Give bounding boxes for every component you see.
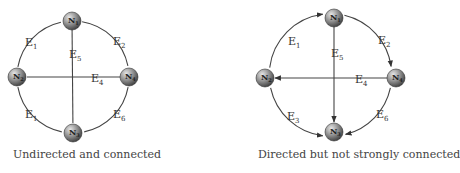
edge-label: E6 [376, 108, 389, 123]
edge-label: E1 [288, 35, 301, 50]
edge-e3 [271, 88, 323, 136]
node-n4: N4 [120, 68, 138, 86]
directed-graph: E1E2E5E4E3E6N1N2N3N4 [256, 9, 405, 141]
node-n2: N2 [8, 68, 26, 86]
edge-label: E4 [355, 73, 368, 88]
edge-label: E2 [378, 34, 391, 49]
undirected-graph: E1E2E5E4E1E6N1N2N3N4 [8, 12, 138, 142]
edge-label: E5 [331, 47, 344, 62]
caption-directed: Directed but not strongly connected [258, 148, 460, 161]
node-n1: N1 [325, 9, 343, 27]
edge-e6 [84, 87, 128, 132]
node-n3: N3 [64, 124, 82, 142]
edge-e1 [270, 14, 323, 67]
edge-label: E1 [25, 108, 38, 123]
node-n2: N2 [256, 69, 274, 87]
edge-label: E2 [113, 35, 126, 50]
node-n4: N4 [387, 69, 405, 87]
edge-label: E6 [113, 108, 126, 123]
caption-undirected: Undirected and connected [13, 148, 161, 161]
edge-label: E5 [69, 48, 82, 63]
edge-label: E3 [287, 110, 300, 125]
edge-label: E4 [91, 72, 104, 87]
edge-label: E1 [25, 36, 38, 51]
node-n1: N1 [63, 12, 81, 30]
node-n3: N3 [325, 123, 343, 141]
